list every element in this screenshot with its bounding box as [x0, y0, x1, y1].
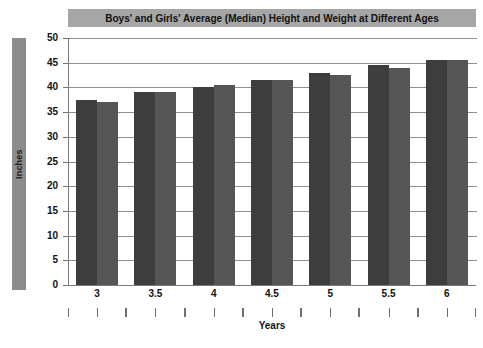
bar-chart: Inches 50454035302520151050 33.544.555.5… [0, 0, 483, 348]
y-axis-tick-label: 35 [30, 107, 58, 117]
bar-boys-4[interactable] [193, 87, 214, 285]
x-axis-category: 6 [418, 286, 476, 320]
x-axis-tick-label: 5.5 [359, 288, 417, 299]
x-axis-tick-mark [243, 308, 244, 317]
x-axis-tick-label: 3 [68, 288, 126, 299]
x-axis-tick-label: 4.5 [243, 288, 301, 299]
x-axis-tick-mark [330, 308, 331, 317]
x-axis-tick-mark [214, 308, 215, 317]
bar-group [309, 38, 351, 285]
x-axis-tick-mark [475, 308, 476, 317]
bar-boys-6[interactable] [426, 60, 447, 285]
x-axis-tick-mark [272, 308, 273, 317]
y-axis-tick-labels: 50454035302520151050 [30, 0, 62, 348]
x-axis-tick-mark [418, 308, 419, 317]
x-axis-tick-mark [126, 308, 127, 317]
bar-group [134, 38, 176, 285]
bar-boys-4-5[interactable] [251, 80, 272, 285]
bar-group [193, 38, 235, 285]
x-axis-category: 5.5 [359, 286, 417, 320]
bar-girls-6[interactable] [447, 60, 468, 285]
bar-boys-3-5[interactable] [134, 92, 155, 285]
bar-group [76, 38, 118, 285]
bar-girls-3[interactable] [97, 102, 118, 285]
x-axis-tick-mark [155, 308, 156, 317]
y-axis-tick-label: 30 [30, 132, 58, 142]
bar-girls-4-5[interactable] [272, 80, 293, 285]
bar-boys-3[interactable] [76, 100, 97, 285]
x-axis-category: 4 [185, 286, 243, 320]
x-axis-title: Years [68, 320, 476, 331]
y-axis-tick-label: 15 [30, 206, 58, 216]
x-axis-tick-mark [389, 308, 390, 317]
x-axis-tick-mark [97, 308, 98, 317]
x-axis-category: 5 [301, 286, 359, 320]
x-axis-tick-label: 4 [185, 288, 243, 299]
y-axis-tick-label: 25 [30, 157, 58, 167]
bar-boys-5-5[interactable] [368, 65, 389, 285]
x-axis-tick-mark [359, 308, 360, 317]
y-axis-tick-label: 50 [30, 33, 58, 43]
bar-boys-5[interactable] [309, 73, 330, 285]
y-axis-title: Inches [12, 38, 26, 290]
y-axis-tick-label: 45 [30, 58, 58, 68]
x-axis-categories: 33.544.555.56 [68, 286, 476, 348]
bar-group [368, 38, 410, 285]
bar-girls-3-5[interactable] [155, 92, 176, 285]
y-axis-tick-label: 40 [30, 82, 58, 92]
x-axis-tick-label: 6 [418, 288, 476, 299]
bar-group [251, 38, 293, 285]
bars-layer [68, 38, 476, 285]
x-axis-tick-label: 5 [301, 288, 359, 299]
bar-girls-5-5[interactable] [389, 68, 410, 285]
x-axis-tick-label: 3.5 [126, 288, 184, 299]
x-axis-tick-mark [301, 308, 302, 317]
bar-girls-4[interactable] [214, 85, 235, 285]
y-axis-tick-label: 10 [30, 231, 58, 241]
x-axis-category: 3 [68, 286, 126, 320]
y-axis-tick-label: 20 [30, 181, 58, 191]
x-axis-tick-mark [447, 308, 448, 317]
x-axis-category: 4.5 [243, 286, 301, 320]
bar-group [426, 38, 468, 285]
bar-girls-5[interactable] [330, 75, 351, 285]
x-axis-category: 3.5 [126, 286, 184, 320]
x-axis-tick-mark [185, 308, 186, 317]
x-axis-tick-mark [68, 308, 69, 317]
y-axis-tick-label: 5 [30, 255, 58, 265]
y-axis-tick-label: 0 [30, 280, 58, 290]
chart-title: Boys' and Girls' Average (Median) Height… [68, 9, 476, 27]
